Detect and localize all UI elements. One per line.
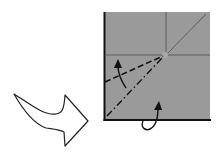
origami-diagram	[0, 0, 223, 156]
crease-intersection	[162, 52, 168, 58]
next-step-arrow-icon	[14, 94, 88, 146]
